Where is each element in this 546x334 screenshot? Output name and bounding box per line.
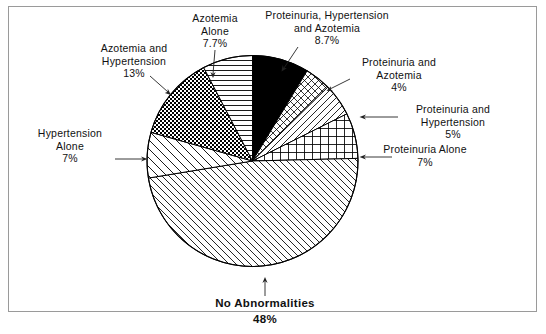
slice-label-hypertension-alone-line2: Alone [56,140,84,152]
slice-label-no-abnormalities: No Abnormalities 48% [190,297,340,325]
slice-label-proteinuria-hypertension-azotemia-line1: Proteinuria, Hypertension [265,9,388,21]
slice-label-hypertension-alone-line1: Hypertension [38,127,102,139]
slice-label-azotemia-and-hypertension-line2: Hypertension [102,55,166,67]
slice-label-proteinuria-and-azotemia-line1: Proteinuria and [362,56,436,68]
pie-slices-group [147,56,358,267]
slice-label-azotemia-alone-line2: Alone [201,25,229,37]
slice-label-proteinuria-hypertension-azotemia-line2: and Azotemia [294,22,360,34]
slice-percent-no-abnormalities: 48% [190,313,340,326]
slice-percent-hypertension-alone: 7% [24,152,116,165]
pie-slice [148,158,358,266]
slice-label-proteinuria-and-hypertension: Proteinuria and Hypertension 5% [398,103,508,141]
slice-label-proteinuria-alone: Proteinuria Alone 7% [366,143,484,168]
slice-label-proteinuria-alone-line1: Proteinuria Alone [383,143,466,155]
slice-percent-proteinuria-hypertension-azotemia: 8.7% [253,34,401,47]
arrow-hypertension-alone [115,156,148,161]
slice-label-proteinuria-and-azotemia-line2: Azotemia [376,69,421,81]
pie-chart-figure: Azotemia Alone 7.7% Proteinuria, Hyperte… [0,0,546,334]
slice-percent-proteinuria-and-hypertension: 5% [398,128,508,141]
slice-label-proteinuria-hypertension-azotemia: Proteinuria, Hypertension and Azotemia 8… [253,9,401,47]
slice-label-azotemia-alone: Azotemia Alone 7.7% [176,12,254,50]
slice-label-azotemia-and-hypertension-line1: Azotemia and [101,42,168,54]
slice-label-proteinuria-and-hypertension-line2: Hypertension [421,116,485,128]
slice-label-hypertension-alone: Hypertension Alone 7% [24,127,116,165]
slice-label-proteinuria-and-azotemia: Proteinuria and Azotemia 4% [344,56,454,94]
slice-percent-proteinuria-and-azotemia: 4% [344,81,454,94]
slice-percent-azotemia-and-hypertension: 13% [82,67,186,80]
slice-percent-azotemia-alone: 7.7% [176,37,254,50]
slice-percent-proteinuria-alone: 7% [366,156,484,169]
arrow-no-abnormalities [262,277,267,296]
arrow-proteinuria-and-hypertension [360,114,399,119]
slice-label-proteinuria-and-hypertension-line1: Proteinuria and [416,103,490,115]
slice-label-azotemia-alone-line1: Azotemia [192,12,237,24]
slice-label-azotemia-and-hypertension: Azotemia and Hypertension 13% [82,42,186,80]
slice-label-no-abnormalities-line1: No Abnormalities [215,297,315,309]
